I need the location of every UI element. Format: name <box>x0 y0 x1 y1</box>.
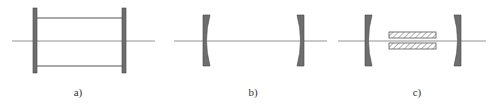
active-element-bottom <box>389 43 436 49</box>
panel-b <box>174 15 327 66</box>
left-concave-mirror <box>203 15 210 66</box>
panel-label-c: c) <box>413 86 422 98</box>
panel-label-b: b) <box>248 86 257 98</box>
panel-c <box>338 15 486 66</box>
right-concave-mirror <box>297 15 304 66</box>
right-concave-mirror <box>454 15 461 66</box>
panel-label-a: a) <box>74 86 83 98</box>
panel-a <box>12 8 155 73</box>
left-concave-mirror <box>365 15 372 66</box>
right-plate <box>122 8 126 73</box>
left-plate <box>33 8 37 73</box>
active-element-top <box>389 32 436 38</box>
